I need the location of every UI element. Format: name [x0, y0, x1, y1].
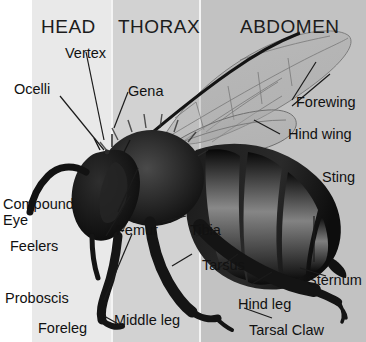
label-gena: Gena [128, 83, 163, 99]
hind-tarsal-claw-shape [336, 302, 346, 322]
ocellus-icon [105, 150, 110, 155]
label-foreleg: Foreleg [38, 320, 87, 336]
label-forewing: Forewing [296, 94, 356, 110]
foreleg-shape [101, 236, 118, 320]
region-title-abdomen: ABDOMEN [240, 16, 340, 38]
label-middle-leg: Middle leg [114, 312, 180, 328]
proboscis-shape [92, 236, 98, 278]
region-title-head: HEAD [41, 16, 96, 38]
label-feelers: Feelers [10, 238, 58, 254]
label-tarsal-claw: Tarsal Claw [249, 322, 324, 338]
label-tibia: Tibia [190, 222, 221, 238]
label-vertex: Vertex [65, 45, 106, 61]
label-sting: Sting [322, 169, 355, 185]
label-hind-wing: Hind wing [288, 126, 352, 142]
label-proboscis: Proboscis [5, 290, 69, 306]
label-tarsus: Tarsus [202, 257, 245, 273]
tarsal-claw-shape [216, 318, 232, 330]
label-ocelli: Ocelli [14, 81, 50, 97]
label-compound-eye: Compound Eye [3, 196, 87, 228]
label-sternum: Sternum [307, 272, 362, 288]
label-femur: Femur [116, 222, 158, 238]
region-title-thorax: THORAX [118, 16, 200, 38]
label-hind-leg: Hind leg [238, 296, 291, 312]
bee-anatomy-diagram: HEAD THORAX ABDOMEN Ocelli Vertex Gena F… [0, 0, 366, 342]
